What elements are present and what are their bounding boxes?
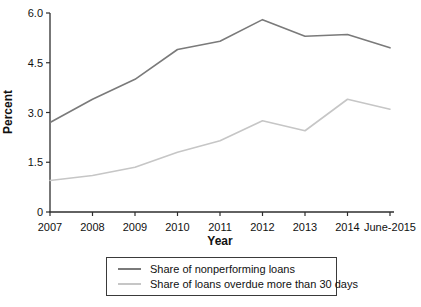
series-line-0 xyxy=(50,20,390,123)
legend-line-swatch-dark xyxy=(118,268,141,270)
line-chart: Percent Year 01.53.04.56.020072008200920… xyxy=(0,0,421,252)
series-line-1 xyxy=(50,99,390,180)
legend-item-nonperforming-loans: Share of nonperforming loans xyxy=(118,262,330,275)
x-tick-label: 2012 xyxy=(250,221,274,233)
y-tick-label: 1.5 xyxy=(28,156,43,168)
chart-figure: Percent Year 01.53.04.56.020072008200920… xyxy=(0,0,421,307)
x-tick-label: 2011 xyxy=(208,221,232,233)
x-tick-label: 2013 xyxy=(293,221,317,233)
legend-line-swatch-light xyxy=(118,283,141,285)
y-tick-label: 0 xyxy=(37,206,43,218)
x-tick-label: June-2015 xyxy=(364,221,416,233)
legend-label-nonperforming-loans: Share of nonperforming loans xyxy=(150,263,295,275)
y-tick-label: 4.5 xyxy=(28,57,43,69)
legend: Share of nonperforming loans Share of lo… xyxy=(106,257,337,296)
y-tick-label: 3.0 xyxy=(28,107,43,119)
y-axis-title: Percent xyxy=(1,90,15,134)
x-tick-label: 2008 xyxy=(80,221,104,233)
legend-item-overdue-loans: Share of loans overdue more than 30 days xyxy=(118,277,330,290)
x-tick-label: 2009 xyxy=(123,221,147,233)
legend-label-overdue-loans: Share of loans overdue more than 30 days xyxy=(150,278,358,290)
x-tick-label: 2014 xyxy=(335,221,359,233)
x-tick-label: 2007 xyxy=(38,221,62,233)
x-axis-title: Year xyxy=(207,234,233,248)
x-tick-label: 2010 xyxy=(165,221,189,233)
y-tick-label: 6.0 xyxy=(28,7,43,19)
